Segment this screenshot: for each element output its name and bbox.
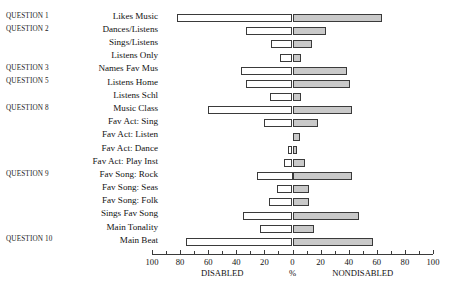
bar-nondisabled <box>293 40 313 48</box>
row-label: Likes Music <box>80 11 158 21</box>
bar-disabled <box>177 14 292 22</box>
row-label: Dances/Listens <box>80 24 158 34</box>
bar-nondisabled <box>293 80 351 88</box>
row-label: Fav Act: Sing <box>80 116 158 126</box>
row-label: Fav Song: Folk <box>80 195 158 205</box>
question-label: QUESTION 8 <box>6 104 78 112</box>
axis-minor-tick <box>307 251 308 254</box>
bar-nondisabled <box>293 159 306 167</box>
axis-tick <box>180 250 181 254</box>
axis-minor-tick <box>250 251 251 254</box>
bar-disabled <box>257 172 292 180</box>
bar-nondisabled <box>293 172 352 180</box>
axis-line <box>152 254 433 255</box>
bar-nondisabled <box>293 14 383 22</box>
bar-disabled <box>277 185 292 193</box>
row-label: Listens Home <box>80 77 158 87</box>
axis-minor-tick <box>363 251 364 254</box>
bar-disabled <box>208 106 292 114</box>
bar-disabled <box>260 225 292 233</box>
axis-tick-label: 40 <box>221 257 251 267</box>
row-label: Listens Schl <box>80 90 158 100</box>
axis-tick-label: 80 <box>390 257 420 267</box>
bar-disabled <box>269 198 293 206</box>
axis-tick-label: 20 <box>306 257 336 267</box>
bar-nondisabled <box>293 93 301 101</box>
bar-disabled <box>246 27 292 35</box>
row-label: Fav Song: Rock <box>80 169 158 179</box>
question-label: QUESTION 9 <box>6 170 78 178</box>
row-label: Main Tonality <box>80 222 158 232</box>
plot-area <box>0 0 454 255</box>
bar-nondisabled <box>293 212 359 220</box>
row-label: Fav Act: Dance <box>80 143 158 153</box>
row-label: Main Beat <box>80 235 158 245</box>
axis-minor-tick <box>335 251 336 254</box>
bar-nondisabled <box>293 27 327 35</box>
axis-minor-tick <box>166 251 167 254</box>
bar-nondisabled <box>293 133 300 141</box>
bar-nondisabled <box>293 238 373 246</box>
axis-tick <box>208 250 209 254</box>
bar-nondisabled <box>293 67 348 75</box>
axis-minor-tick <box>194 251 195 254</box>
axis-tick <box>405 250 406 254</box>
axis-tick-label: 80 <box>165 257 195 267</box>
question-label: QUESTION 5 <box>6 77 78 85</box>
row-label: Names Fav Mus <box>80 63 158 73</box>
bar-disabled <box>271 40 292 48</box>
row-label: Sings Fav Song <box>80 208 158 218</box>
question-label: QUESTION 1 <box>6 12 78 20</box>
bar-disabled <box>284 159 292 167</box>
bar-disabled <box>243 212 292 220</box>
bar-nondisabled <box>293 106 352 114</box>
axis-tick-label: 0 <box>278 257 308 267</box>
bar-nondisabled <box>293 119 318 127</box>
bar-disabled <box>246 80 292 88</box>
bar-nondisabled <box>293 225 314 233</box>
bar-nondisabled <box>293 185 310 193</box>
population-pyramid-chart: Likes MusicQUESTION 1Dances/ListensQUEST… <box>0 0 454 291</box>
bar-nondisabled <box>293 54 301 62</box>
bar-disabled <box>241 67 293 75</box>
axis-tick-label: 20 <box>249 257 279 267</box>
axis-minor-tick <box>391 251 392 254</box>
row-label: Music Class <box>80 103 158 113</box>
bar-disabled <box>264 119 292 127</box>
axis-tick-label: 40 <box>334 257 364 267</box>
nondisabled-group-label: NONDISABLED <box>303 268 423 278</box>
row-label: Fav Song: Seas <box>80 182 158 192</box>
axis-tick-label: 60 <box>362 257 392 267</box>
axis-tick <box>236 250 237 254</box>
row-label: Listens Only <box>80 50 158 60</box>
bar-nondisabled <box>293 146 297 154</box>
axis-tick <box>321 250 322 254</box>
question-label: QUESTION 10 <box>6 235 78 243</box>
question-label: QUESTION 3 <box>6 64 78 72</box>
axis-tick <box>152 250 153 254</box>
question-label: QUESTION 2 <box>6 25 78 33</box>
axis-tick-label: 60 <box>193 257 223 267</box>
row-label: Sings/Listens <box>80 37 158 47</box>
row-label: Fav Act: Listen <box>80 129 158 139</box>
bar-nondisabled <box>293 198 310 206</box>
axis-minor-tick <box>419 251 420 254</box>
axis-tick <box>264 250 265 254</box>
axis-tick-label: 100 <box>137 257 167 267</box>
axis-tick <box>433 250 434 254</box>
axis-tick <box>349 250 350 254</box>
bar-disabled <box>280 54 293 62</box>
bar-disabled <box>186 238 293 246</box>
bar-disabled <box>270 93 292 101</box>
row-label: Fav Act: Play Inst <box>80 156 158 166</box>
axis-tick-label: 100 <box>418 257 448 267</box>
axis-minor-tick <box>222 251 223 254</box>
axis-minor-tick <box>278 251 279 254</box>
axis-tick <box>293 250 294 254</box>
axis-tick <box>377 250 378 254</box>
